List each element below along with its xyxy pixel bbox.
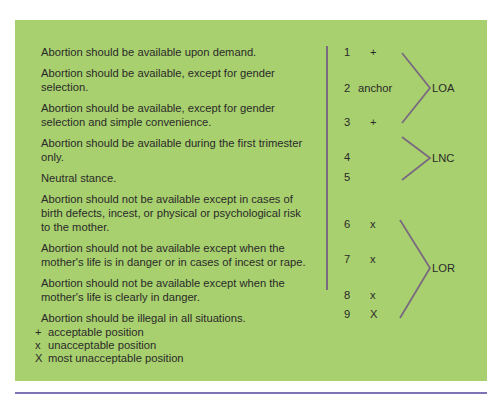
group-label-lnc: LNC xyxy=(432,152,454,164)
bracket-loa-icon xyxy=(402,53,430,123)
legend-label: acceptable position xyxy=(48,326,144,338)
bracket-lnc-icon xyxy=(402,137,430,180)
legend-label: most unacceptable position xyxy=(48,352,184,364)
plus-icon: + xyxy=(35,326,48,339)
group-label-lor: LOR xyxy=(432,262,455,274)
legend-item-acceptable: +acceptable position xyxy=(35,326,144,339)
group-label-loa: LOA xyxy=(432,82,454,94)
bottom-rule xyxy=(15,392,487,394)
legend-label: unacceptable position xyxy=(48,339,156,351)
small-x-icon: x xyxy=(35,339,48,352)
large-x-icon: X xyxy=(35,352,48,365)
legend-item-most-unacceptable: Xmost unacceptable position xyxy=(35,352,184,365)
bracket-lor-icon xyxy=(400,220,430,318)
legend-item-unacceptable: xunacceptable position xyxy=(35,339,156,352)
